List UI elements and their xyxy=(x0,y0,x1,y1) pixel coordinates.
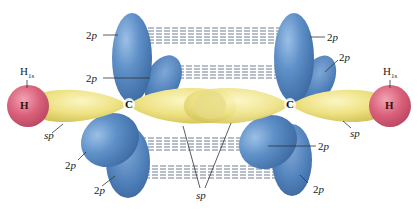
h1s-label-left: H1s xyxy=(20,66,34,80)
c-symbol-right: C xyxy=(284,98,296,111)
h1s-label-right: H1s xyxy=(383,66,397,80)
label-2p-lower-right-front: 2p xyxy=(318,141,329,152)
label-2p-upper-left-back: 2p xyxy=(86,73,97,84)
h1s-left-text: H xyxy=(20,65,28,77)
p-orbital-upper-left-front xyxy=(112,13,152,103)
h-symbol-left: H xyxy=(20,100,29,111)
sp-overlap-region xyxy=(194,91,226,119)
h1s-right-text: H xyxy=(383,65,391,77)
label-2p-upper-right-back: 2p xyxy=(339,52,350,63)
label-sp-left: sp xyxy=(44,130,54,141)
p-orbital-upper-right-front xyxy=(274,13,314,103)
acetylene-orbital-diagram xyxy=(0,0,419,211)
label-2p-upper-left-front: 2p xyxy=(86,30,97,41)
h-symbol-right: H xyxy=(385,100,394,111)
c-symbol-left: C xyxy=(123,98,135,111)
label-sp-center: sp xyxy=(196,190,206,201)
h1s-right-sub: 1s xyxy=(391,72,397,80)
label-2p-lower-left-back: 2p xyxy=(94,185,105,196)
label-2p-lower-right-back: 2p xyxy=(313,184,324,195)
label-sp-right: sp xyxy=(350,128,360,139)
label-2p-lower-left-front: 2p xyxy=(65,160,76,171)
h1s-left-sub: 1s xyxy=(28,72,34,80)
label-2p-upper-right-front: 2p xyxy=(327,32,338,43)
